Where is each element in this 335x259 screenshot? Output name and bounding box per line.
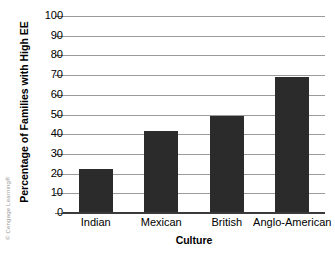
y-axis-tick-labels: 0102030405060708090100 [15,16,63,213]
y-tick-label: 60 [23,89,63,100]
gridline [63,75,325,76]
x-axis-title: Culture [63,234,325,246]
plot-area [63,16,325,213]
gridline [63,36,325,37]
x-tick-label: Indian [81,216,111,228]
x-tick-label: British [211,216,242,228]
bar [79,169,113,213]
y-tick-label: 0 [23,207,63,218]
y-tick-label: 10 [23,187,63,198]
y-tick-label: 90 [23,30,63,41]
gridline [63,55,325,56]
x-axis-tick-labels: IndianMexicanBritishAnglo-American [63,216,325,232]
gridline [63,16,325,17]
bar-chart-figure: © Cengage Learning® Percentage of Famili… [0,0,335,259]
y-tick-label: 30 [23,148,63,159]
x-tick-label: Mexican [141,216,182,228]
y-tick-label: 50 [23,109,63,120]
x-axis-line [63,212,325,214]
bar [144,131,178,213]
bar [275,77,309,213]
y-tick-label: 20 [23,168,63,179]
y-tick-label: 40 [23,128,63,139]
y-tick-label: 100 [23,10,63,21]
y-tick-label: 70 [23,69,63,80]
x-tick-label: Anglo-American [253,216,331,228]
y-tick-label: 80 [23,49,63,60]
bar [210,116,244,214]
